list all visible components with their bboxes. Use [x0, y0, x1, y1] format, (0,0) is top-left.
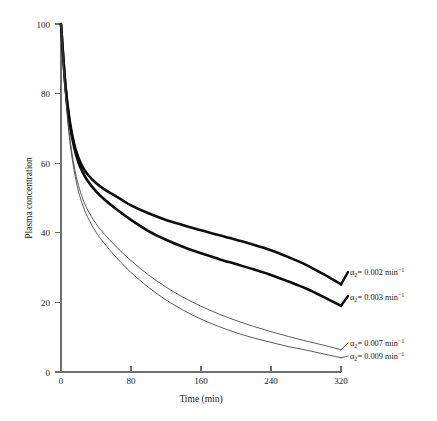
- plot-canvas: 0 20 40 60 80 100 0 80 160 240 320 Time …: [0, 0, 437, 421]
- alpha-text-0002: = 0.002 min: [357, 268, 398, 277]
- curve-alpha2-0009: [61, 24, 341, 358]
- alpha-superscript-0002: −1: [398, 266, 405, 273]
- x-axis-title: Time (min): [179, 394, 222, 405]
- leader-0002: [341, 272, 348, 284]
- alpha-superscript-0003: −1: [398, 291, 405, 298]
- series-curves: [61, 24, 341, 358]
- x-tick-labels: 0 80 160 240 320: [59, 376, 349, 386]
- y-tick-label-80: 80: [41, 89, 51, 99]
- series-label-0003: α2= 0.003 min−1: [350, 291, 404, 304]
- curve-alpha2-0003: [61, 24, 341, 306]
- series-label-0002: α2= 0.002 min−1: [350, 266, 404, 279]
- series-label-0007: α2= 0.007 min−1: [350, 337, 404, 350]
- leader-0009: [341, 356, 348, 358]
- x-tick-label-320: 320: [334, 376, 348, 386]
- series-annotation-0003: α2= 0.003 min−1: [350, 291, 404, 304]
- chart-figure: 0 20 40 60 80 100 0 80 160 240 320 Time …: [0, 0, 437, 421]
- y-tick-marks: [55, 24, 61, 372]
- leader-0007: [341, 343, 348, 350]
- y-tick-label-0: 0: [46, 368, 51, 378]
- x-tick-label-80: 80: [127, 376, 137, 386]
- alpha-superscript-0009: −1: [398, 350, 405, 357]
- alpha-superscript-0007: −1: [398, 337, 405, 344]
- y-tick-labels: 0 20 40 60 80 100: [37, 20, 51, 378]
- alpha-text-0009: = 0.009 min: [357, 352, 398, 361]
- alpha-text-0007: = 0.007 min: [357, 339, 398, 348]
- x-tick-label-160: 160: [194, 376, 208, 386]
- y-tick-label-40: 40: [41, 228, 51, 238]
- leader-0003: [341, 296, 348, 306]
- x-tick-label-0: 0: [59, 376, 64, 386]
- series-annotation-0002: α2= 0.002 min−1: [350, 266, 404, 279]
- x-tick-label-240: 240: [264, 376, 278, 386]
- y-axis-title: Plasma concentration: [24, 157, 34, 239]
- x-tick-marks: [61, 366, 341, 372]
- y-tick-label-20: 20: [41, 298, 51, 308]
- y-tick-label-60: 60: [41, 159, 51, 169]
- curve-alpha2-0002: [61, 24, 341, 284]
- series-annotation-0009: α2= 0.009 min−1: [350, 350, 404, 363]
- series-annotation-0007: α2= 0.007 min−1: [350, 337, 404, 350]
- alpha-text-0003: = 0.003 min: [357, 293, 398, 302]
- series-label-0009: α2= 0.009 min−1: [350, 350, 404, 363]
- y-tick-label-100: 100: [37, 20, 51, 30]
